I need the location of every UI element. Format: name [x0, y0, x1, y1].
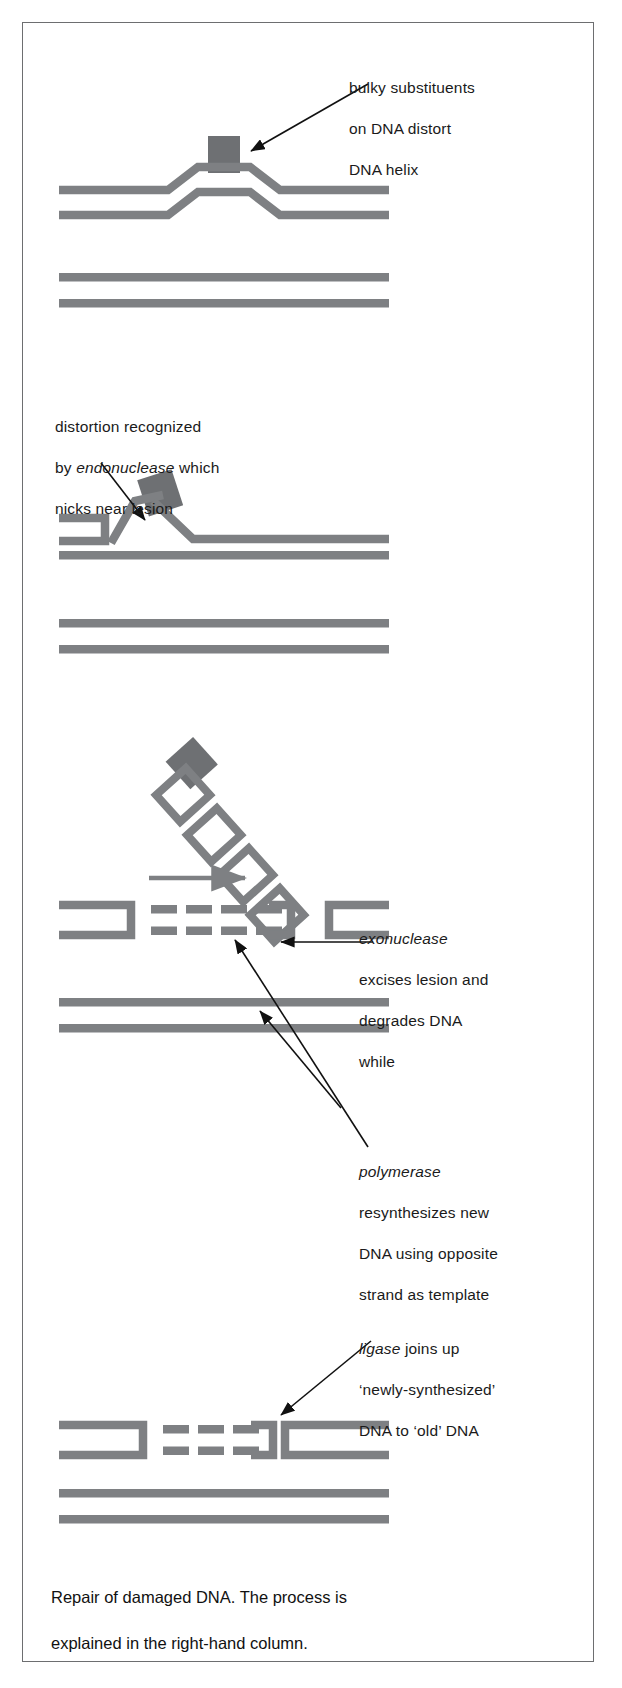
dna-strand-1-upper	[59, 167, 389, 190]
caption-bulky-substituents: bulky substituents on DNA distort DNA he…	[349, 57, 475, 201]
caption-line: on DNA distort	[349, 119, 475, 140]
term-polymerase: polymerase	[359, 1163, 441, 1180]
bottom-caption-line: explained in the right-hand column.	[51, 1632, 521, 1655]
dna-duplex-4b-upper	[59, 1489, 389, 1498]
bottom-caption-line: Repair of damaged DNA. The process is	[51, 1586, 521, 1609]
dna-duplex-3b-upper	[59, 998, 389, 1007]
term-exonuclease: exonuclease	[359, 930, 448, 947]
caption-line: while	[359, 1052, 395, 1073]
pointer-arrow-ligase	[281, 1341, 371, 1415]
dna-strand-2-lower	[59, 551, 389, 560]
panel-3-artwork	[59, 737, 389, 1147]
dna-duplex-2b-lower	[59, 645, 389, 654]
dna-duplex-4b-lower	[59, 1515, 389, 1524]
caption-text: joins up	[400, 1340, 459, 1357]
new-dna-dashes-lower-3	[151, 927, 282, 936]
dna-strand-4-left	[59, 1425, 143, 1455]
diagram-stage: bulky substituents on DNA distort DNA he…	[23, 23, 593, 1661]
caption-while: while	[359, 1031, 395, 1093]
dna-duplex-2b-upper	[59, 619, 389, 628]
new-dna-dashes-upper-4	[163, 1425, 259, 1434]
dna-strand-1-lower	[59, 192, 389, 215]
caption-line: exonuclease	[359, 929, 488, 950]
caption-line: polymerase	[359, 1162, 498, 1183]
caption-line: DNA helix	[349, 160, 475, 181]
excised-nucleotide-2	[187, 808, 241, 862]
caption-text: by	[55, 459, 76, 476]
caption-line: ligase joins up	[359, 1339, 495, 1360]
caption-line: bulky substituents	[349, 78, 475, 99]
caption-line: excises lesion and	[359, 970, 488, 991]
caption-line: DNA to ‘old’ DNA	[359, 1421, 495, 1442]
dna-duplex-1b-upper	[59, 273, 389, 282]
caption-text: which	[175, 459, 220, 476]
dna-repair-artwork	[23, 23, 595, 1663]
term-ligase: ligase	[359, 1340, 400, 1357]
figure-frame: bulky substituents on DNA distort DNA he…	[22, 22, 594, 1662]
term-endonuclease: endonuclease	[76, 459, 174, 476]
caption-line: distortion recognized	[55, 417, 219, 438]
panel-1-artwork	[59, 84, 389, 308]
caption-line: by endonuclease which	[55, 458, 219, 479]
panel-4-artwork	[59, 1341, 389, 1524]
dna-strand-3-left	[59, 905, 131, 935]
figure-bottom-caption: Repair of damaged DNA. The process is ex…	[51, 1563, 521, 1678]
caption-line: degrades DNA	[359, 1011, 488, 1032]
excised-nucleotide-3	[219, 848, 273, 902]
caption-exonuclease: exonuclease excises lesion and degrades …	[359, 908, 488, 1052]
caption-line: ‘newly-synthesized’	[359, 1380, 495, 1401]
pointer-arrow-polymerase-a	[235, 940, 368, 1147]
caption-ligase: ligase joins up ‘newly-synthesized’ DNA …	[359, 1318, 495, 1462]
dna-duplex-3b-lower	[59, 1024, 389, 1033]
caption-line: resynthesizes new	[359, 1203, 498, 1224]
caption-line: DNA using opposite	[359, 1244, 498, 1265]
new-dna-dashes-lower-4	[163, 1447, 259, 1456]
caption-line: strand as template	[359, 1285, 498, 1306]
new-dna-dashes-upper-3	[151, 905, 282, 914]
caption-endonuclease: distortion recognized by endonuclease wh…	[55, 396, 219, 540]
caption-line: nicks near lesion	[55, 499, 219, 520]
dna-duplex-1b-lower	[59, 299, 389, 308]
caption-polymerase: polymerase resynthesizes new DNA using o…	[359, 1141, 498, 1326]
